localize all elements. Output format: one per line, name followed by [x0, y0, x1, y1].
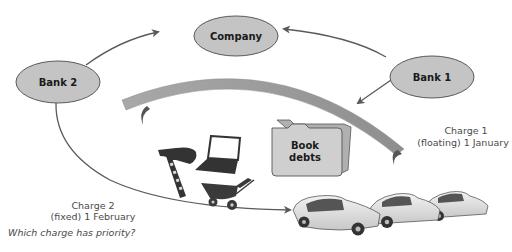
folder-label-line2: debts [289, 152, 321, 163]
node-company-label: Company [210, 31, 263, 42]
band-hook-left-icon [141, 106, 150, 125]
node-bank2: Bank 2 [16, 61, 100, 103]
nail-gun-icon [158, 148, 196, 199]
car-front [293, 196, 380, 236]
charge1-line1: Charge 1 [444, 125, 487, 136]
node-bank2-label: Bank 2 [39, 77, 78, 88]
charge2-caption: Charge 2 (fixed) 1 February [51, 200, 136, 222]
cars-icon [293, 192, 488, 236]
folder-label-line1: Book [291, 140, 319, 151]
charge2-line2: (fixed) 1 February [51, 211, 136, 222]
node-bank1-label: Bank 1 [413, 72, 452, 83]
node-company: Company [194, 16, 278, 56]
arrow-bank1-to-company [284, 29, 386, 57]
charge-priority-diagram: Company Bank 1 Bank 2 Book debts [0, 0, 512, 252]
charge1-line2: (floating) 1 January [417, 137, 509, 148]
laptop-icon [195, 136, 240, 174]
book-debts-folder-icon: Book debts [272, 120, 351, 176]
node-bank1: Bank 1 [390, 56, 474, 98]
arrow-bank2-to-company [86, 32, 158, 65]
charge1-caption: Charge 1 (floating) 1 January [417, 125, 509, 148]
arrow-bank1-to-band [358, 80, 391, 103]
priority-question: Which charge has priority? [8, 227, 135, 238]
charge2-line1: Charge 2 [71, 200, 114, 211]
